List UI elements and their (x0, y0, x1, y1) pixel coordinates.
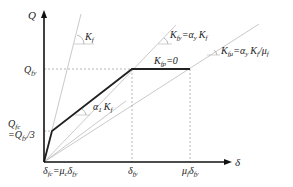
x-axis-arrow-icon (224, 159, 232, 165)
y-axis-label: Q (28, 9, 36, 21)
delta-fy-label: δfy (128, 165, 139, 178)
secondary-reference-line (44, 101, 126, 162)
alpha1-angle-arc-icon (82, 109, 86, 115)
y-axis-arrow-icon (41, 10, 47, 18)
kf-angle-arc-icon (77, 35, 84, 44)
alpha1-kf-annotation: α1Kf (93, 101, 113, 114)
qfy-label: Qfy (24, 64, 37, 77)
mu-delta-fy-label: μfδfy (181, 165, 200, 178)
kfy-reference-line (44, 25, 176, 162)
kfy-angle-arc-icon (164, 38, 168, 44)
backbone-diagram: Q δ Qfy Qfc =Qfy/3 δfc=μcδfy δfy μfδfy K… (0, 0, 293, 187)
kfp-annotation: Kfp=0 (153, 55, 178, 68)
kfy-annotation: Kfy=αyKf (169, 29, 209, 42)
delta-fc-label: δfc=μcδfy (43, 165, 78, 178)
kf-annotation: Kf (84, 31, 95, 44)
x-axis-label: δ (235, 156, 241, 168)
kfmu-annotation: Kfμ=αyKf/μf (220, 45, 270, 58)
qfc-eq-label: =Qfy/3 (8, 129, 35, 142)
